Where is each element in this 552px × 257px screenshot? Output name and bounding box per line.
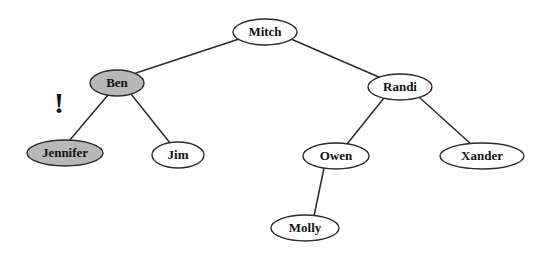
tree-node-randi[interactable]: Randi <box>368 74 432 100</box>
tree-diagram-canvas: MitchBenRandiJenniferJimOwenXanderMolly … <box>0 0 552 257</box>
tree-node-molly[interactable]: Molly <box>271 215 339 241</box>
tree-node-jennifer[interactable]: Jennifer <box>27 140 103 166</box>
annotation-exclamation-icon: ! <box>54 86 64 119</box>
tree-edges-group <box>69 39 471 216</box>
tree-node-mitch[interactable]: Mitch <box>233 19 297 45</box>
tree-node-shape-mitch <box>233 19 297 45</box>
tree-node-shape-jennifer <box>27 140 103 166</box>
tree-node-jim[interactable]: Jim <box>152 142 204 168</box>
tree-node-shape-randi <box>368 74 432 100</box>
tree-edge-owen-molly <box>314 168 324 216</box>
tree-edge-mitch-randi <box>291 39 381 78</box>
tree-edge-ben-jim <box>131 94 170 143</box>
tree-annotations-group: ! <box>54 86 64 119</box>
tree-node-xander[interactable]: Xander <box>440 143 524 169</box>
tree-diagram-svg: MitchBenRandiJenniferJimOwenXanderMolly … <box>0 0 552 257</box>
tree-edge-randi-xander <box>420 98 471 144</box>
tree-node-shape-molly <box>271 215 339 241</box>
tree-edge-mitch-ben <box>136 39 239 73</box>
tree-edge-ben-jennifer <box>69 95 108 141</box>
tree-node-owen[interactable]: Owen <box>303 143 369 169</box>
tree-edge-randi-owen <box>347 98 384 144</box>
tree-node-shape-ben <box>90 70 144 96</box>
tree-nodes-group: MitchBenRandiJenniferJimOwenXanderMolly <box>27 19 524 241</box>
tree-node-ben[interactable]: Ben <box>90 70 144 96</box>
tree-node-shape-owen <box>303 143 369 169</box>
tree-node-shape-jim <box>152 142 204 168</box>
tree-node-shape-xander <box>440 143 524 169</box>
